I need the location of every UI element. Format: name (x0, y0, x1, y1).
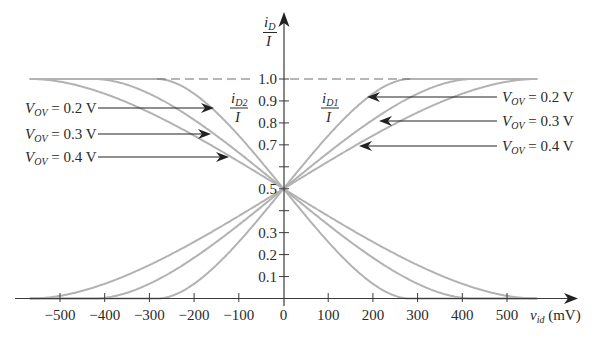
y-tick-label: 1.0 (258, 71, 277, 87)
id2-numerator: iD2 (231, 90, 247, 108)
y-tick-label: 0.8 (258, 115, 277, 131)
x-tick-label: 300 (406, 307, 429, 323)
right-vov-label-2: VOV = 0.4 V (502, 138, 574, 156)
x-tick-label: −300 (134, 307, 165, 323)
right-vov-label-0: VOV = 0.2 V (502, 89, 574, 107)
x-axis-label: vid (mV) (530, 307, 581, 325)
left-vov-label-1: VOV = 0.3 V (25, 126, 97, 144)
x-tick-label: 0 (280, 307, 288, 323)
id1-numerator: iD1 (322, 90, 338, 108)
id2-denominator: I (234, 109, 241, 125)
x-tick-label: −200 (179, 307, 210, 323)
y-tick-label: 0.1 (258, 269, 277, 285)
differential-pair-transfer-chart: −500−400−300−200−1000100200300400500 0.1… (0, 0, 597, 339)
y-tick-label: 0.2 (258, 247, 277, 263)
y-tick-label: 0.9 (258, 93, 277, 109)
x-tick-label: −400 (89, 307, 120, 323)
right-vov-label-1: VOV = 0.3 V (502, 113, 574, 131)
curve-label-id1: iD1 I (321, 90, 339, 125)
id1-denominator: I (325, 109, 332, 125)
y-label-denominator: I (265, 33, 272, 49)
x-tick-label: 200 (362, 307, 385, 323)
x-tick-label: −500 (45, 307, 76, 323)
y-label-numerator: iD (264, 14, 276, 32)
y-tick-label: 0.3 (258, 225, 277, 241)
x-tick-label: 400 (451, 307, 474, 323)
y-tick-label: 0.7 (258, 137, 277, 153)
y-axis-label: iD I (263, 14, 277, 49)
x-tick-label: 100 (317, 307, 340, 323)
left-annotations: VOV = 0.2 V VOV = 0.3 V VOV = 0.4 V (25, 100, 229, 167)
right-annotations: VOV = 0.2 V VOV = 0.3 V VOV = 0.4 V (359, 89, 574, 156)
y-tick-label: 0.5 (258, 181, 277, 197)
left-vov-label-0: VOV = 0.2 V (25, 100, 97, 118)
x-tick-label: −100 (223, 307, 254, 323)
axes-layer (15, 12, 578, 306)
x-tick-label: 500 (496, 307, 519, 323)
left-vov-label-2: VOV = 0.4 V (25, 149, 97, 167)
chart-canvas: −500−400−300−200−1000100200300400500 0.1… (0, 0, 597, 339)
curve-label-id2: iD2 I (230, 90, 248, 125)
